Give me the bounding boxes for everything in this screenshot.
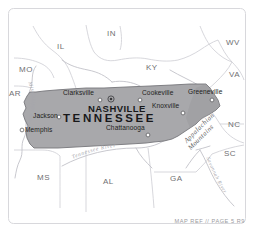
city-dot-clarksville	[98, 98, 102, 102]
map-canvas: Mississippi River Tennessee River Savann…	[0, 0, 254, 240]
city-dot-greeneville	[210, 98, 214, 102]
city-dot-chattanooga	[146, 133, 150, 137]
city-dot-knoxville	[181, 111, 185, 115]
map-figure: Mississippi River Tennessee River Savann…	[0, 0, 254, 240]
city-dot-memphis	[20, 128, 24, 132]
map-reference-text: MAP REF // PAGE 5 R9	[175, 218, 245, 224]
city-dot-cookeville	[138, 98, 142, 102]
city-dot-jackson	[57, 115, 61, 119]
